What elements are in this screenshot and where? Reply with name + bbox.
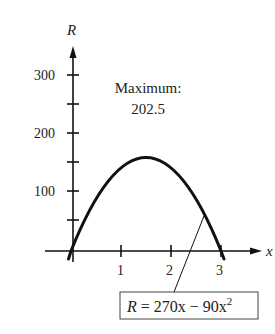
maximum-value: 202.5 [131, 101, 165, 117]
y-axis-arrow-icon [70, 46, 77, 58]
y-tick-label-200: 200 [34, 126, 55, 141]
x-tick-label-1: 1 [117, 263, 124, 278]
leader-line [174, 216, 204, 292]
y-tick-label-100: 100 [34, 184, 55, 199]
x-axis-label: x [265, 243, 273, 259]
revenue-curve [69, 158, 225, 259]
equation-label: R= 270x − 90x2 [126, 295, 232, 315]
x-tick-label-3: 3 [216, 263, 223, 278]
x-axis-arrow-icon [250, 248, 262, 255]
x-tick-label-2: 2 [166, 263, 173, 278]
y-tick-label-300: 300 [34, 68, 55, 83]
y-axis-label: R [66, 22, 76, 38]
maximum-label: Maximum: [115, 80, 182, 96]
revenue-chart: 300 200 100 1 2 3 R x Maximum: 202.5 R= … [0, 0, 275, 334]
